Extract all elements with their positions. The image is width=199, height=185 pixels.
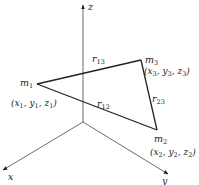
edge-r13-label: r13 [92,54,105,66]
mass-subscript: 1 [29,82,33,90]
mass-m1-label: m1 [20,78,33,90]
x-axis-label: x [8,172,13,182]
y-axis-label: y [162,176,167,185]
mass-m2-coords: (x2, y2, z2) [150,148,196,159]
edge-r23-label: r23 [152,94,165,106]
edge-r12-label: r12 [97,99,110,111]
edge-r13 [37,60,141,84]
mass-m1-coords: (x1, y1, z1) [11,99,57,110]
mass-name: m [20,77,29,88]
z-axis-label: z [88,2,93,12]
mass-name: m [154,133,163,144]
mass-name: m [145,54,154,65]
x-axis [3,122,83,170]
mass-subscript: 2 [163,138,167,146]
mass-m2-label: m2 [154,134,167,146]
mass-m3-coords: (x3, y3, z3) [144,67,190,78]
mass-m3-label: m3 [145,55,158,67]
